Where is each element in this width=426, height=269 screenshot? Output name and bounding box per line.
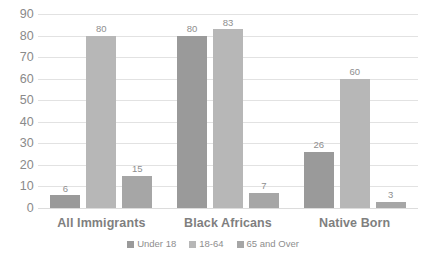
- legend-label: 18-64: [199, 239, 223, 249]
- bar-value-label: 60: [349, 67, 360, 77]
- bar-group-all-immigrants: 6 80 15: [38, 14, 165, 208]
- bar-value-label: 83: [223, 18, 234, 28]
- legend-item-under-18: Under 18: [127, 239, 176, 249]
- legend-swatch-icon: [189, 241, 196, 248]
- y-axis-tick: 50: [0, 94, 34, 107]
- bar-wrap: 80: [177, 14, 207, 208]
- chart-legend: Under 18 18-64 65 and Over: [0, 236, 426, 252]
- legend-swatch-icon: [127, 241, 134, 248]
- y-axis-tick: 10: [0, 180, 34, 193]
- plot-area: 6 80 15 80: [38, 14, 418, 208]
- bar-under-18: [304, 152, 334, 208]
- bar-18-64: [86, 36, 116, 208]
- bar-group-black-africans: 80 83 7: [165, 14, 292, 208]
- legend-label: 65 and Over: [247, 239, 299, 249]
- bar-value-label: 80: [187, 24, 198, 34]
- axis-baseline: [38, 208, 418, 209]
- legend-label: Under 18: [137, 239, 176, 249]
- bar-wrap: 80: [86, 14, 116, 208]
- y-axis-tick: 60: [0, 72, 34, 85]
- bar-65-and-over: [376, 202, 406, 208]
- bar-wrap: 15: [122, 14, 152, 208]
- bar-value-label: 26: [313, 140, 324, 150]
- bar-wrap: 3: [376, 14, 406, 208]
- y-axis-tick: 0: [0, 202, 34, 215]
- bar-18-64: [213, 29, 243, 208]
- category-label-black-africans: Black Africans: [165, 212, 292, 234]
- bar-chart: 90 80 70 60 50 40 30 20 10 0: [0, 0, 426, 269]
- legend-item-65-and-over: 65 and Over: [237, 239, 299, 249]
- bar-wrap: 7: [249, 14, 279, 208]
- bar-wrap: 26: [304, 14, 334, 208]
- bar-group-native-born: 26 60 3: [291, 14, 418, 208]
- y-axis-tick: 30: [0, 137, 34, 150]
- bar-wrap: 83: [213, 14, 243, 208]
- bar-value-label: 6: [63, 184, 68, 194]
- y-axis-tick: 20: [0, 159, 34, 172]
- bar-65-and-over: [122, 176, 152, 208]
- bar-under-18: [177, 36, 207, 208]
- bar-wrap: 60: [340, 14, 370, 208]
- y-axis-tick: 70: [0, 51, 34, 64]
- bar-value-label: 3: [388, 190, 393, 200]
- y-axis: 90 80 70 60 50 40 30 20 10 0: [0, 14, 34, 208]
- y-axis-tick: 40: [0, 116, 34, 129]
- category-label-native-born: Native Born: [291, 212, 418, 234]
- y-axis-tick: 80: [0, 29, 34, 42]
- x-axis-category-labels: All Immigrants Black Africans Native Bor…: [38, 212, 418, 234]
- bar-groups: 6 80 15 80: [38, 14, 418, 208]
- bar-under-18: [50, 195, 80, 208]
- category-label-all-immigrants: All Immigrants: [38, 212, 165, 234]
- bar-18-64: [340, 79, 370, 208]
- bar-wrap: 6: [50, 14, 80, 208]
- legend-swatch-icon: [237, 241, 244, 248]
- y-axis-tick: 90: [0, 8, 34, 21]
- legend-item-18-64: 18-64: [189, 239, 223, 249]
- bar-value-label: 7: [261, 181, 266, 191]
- bar-value-label: 80: [96, 24, 107, 34]
- bar-65-and-over: [249, 193, 279, 208]
- bar-value-label: 15: [132, 164, 143, 174]
